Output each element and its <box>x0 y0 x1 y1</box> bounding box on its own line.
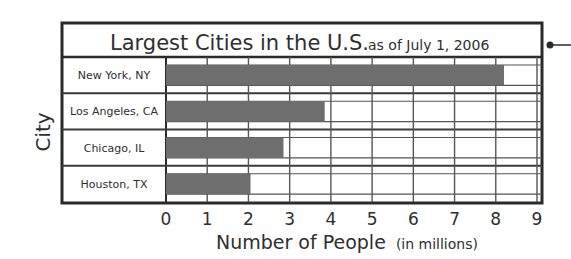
x-tick-label: 5 <box>367 209 378 229</box>
chart-title: Largest Cities in the U.S. <box>110 31 369 55</box>
x-axis-label: Number of People (in millions) <box>216 231 478 253</box>
x-axis-label-unit: (in millions) <box>396 236 478 252</box>
bar <box>166 101 325 121</box>
chart-subtitle: as of July 1, 2006 <box>368 37 489 53</box>
x-tick-label: 0 <box>161 209 172 229</box>
category-label: New York, NY <box>78 69 151 82</box>
x-tick-label: 7 <box>449 209 460 229</box>
x-tick-label: 6 <box>408 209 419 229</box>
bar-chart: Largest Cities in the U.S. as of July 1,… <box>0 0 571 259</box>
x-tick-label: 4 <box>325 209 336 229</box>
y-axis-label: City <box>31 112 55 151</box>
category-label: Chicago, IL <box>84 142 145 155</box>
x-tick-labels: 0123456789 <box>161 209 543 229</box>
x-tick-label: 9 <box>532 209 543 229</box>
x-tick-label: 2 <box>243 209 254 229</box>
x-tick-label: 1 <box>202 209 213 229</box>
bar <box>166 137 283 157</box>
x-axis-label-main: Number of People <box>216 231 386 253</box>
x-tick-label: 8 <box>490 209 501 229</box>
bar <box>166 65 504 85</box>
x-tick-label: 3 <box>284 209 295 229</box>
category-label: Los Angeles, CA <box>70 105 158 118</box>
category-label: Houston, TX <box>81 178 148 191</box>
bar <box>166 174 251 194</box>
